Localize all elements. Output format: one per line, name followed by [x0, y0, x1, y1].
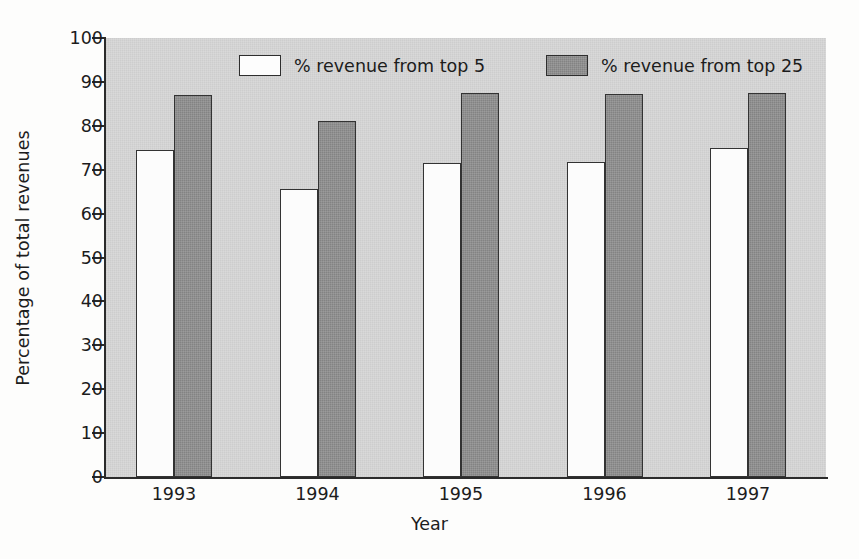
y-tick-label: 100 [22, 28, 106, 48]
legend-label-top-5: % revenue from top 5 [294, 56, 485, 76]
legend-entry-top-25[interactable]: % revenue from top 25 [546, 55, 803, 76]
bar-1997-series-0 [710, 148, 748, 477]
y-tick-label: 10 [22, 423, 106, 443]
bar-1997-series-1 [748, 93, 786, 477]
y-tick-label: 70 [22, 160, 106, 180]
y-tick-label: 20 [22, 379, 106, 399]
y-tick-label: 90 [22, 72, 106, 92]
y-tick-label: 60 [22, 204, 106, 224]
x-axis-title: Year [0, 514, 859, 534]
bar-1996-series-1 [605, 94, 643, 477]
x-tick-label-1994: 1994 [258, 484, 378, 504]
x-tick-label-1996: 1996 [545, 484, 665, 504]
bar-1995-series-0 [423, 163, 461, 477]
x-axis-line [104, 477, 828, 479]
legend-entry-top-5[interactable]: % revenue from top 5 [239, 55, 485, 76]
y-tick-label: 0 [22, 467, 106, 487]
y-tick-label: 50 [22, 248, 106, 268]
bar-1994-series-0 [280, 189, 318, 477]
bar-1993-series-1 [174, 95, 212, 477]
y-tick-label: 40 [22, 291, 106, 311]
bar-1995-series-1 [461, 93, 499, 477]
legend-label-top-25: % revenue from top 25 [601, 56, 803, 76]
legend-swatch-top-25 [546, 55, 588, 76]
legend-swatch-top-5 [239, 55, 281, 76]
y-tick-label: 80 [22, 116, 106, 136]
y-tick-label: 30 [22, 335, 106, 355]
x-tick-label-1995: 1995 [401, 484, 521, 504]
plot-area: % revenue from top 5 % revenue from top … [106, 38, 826, 477]
x-tick-label-1993: 1993 [114, 484, 234, 504]
bar-1996-series-0 [567, 162, 605, 477]
bar-1994-series-1 [318, 121, 356, 477]
x-tick-label-1997: 1997 [688, 484, 808, 504]
bar-1993-series-0 [136, 150, 174, 477]
bar-chart-figure: Percentage of total revenues 01020304050… [0, 0, 859, 559]
